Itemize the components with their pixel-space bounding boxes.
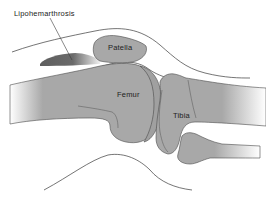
femur — [10, 63, 159, 142]
knee-diagram: Lipohemarthrosis Patella Femur Tibia — [0, 0, 266, 205]
label-femur: Femur — [117, 90, 140, 99]
fibula — [178, 133, 260, 164]
lipohemarthrosis-leader-line — [50, 18, 72, 60]
label-lipohemarthrosis: Lipohemarthrosis — [14, 9, 75, 18]
lipohemarthrosis-effusion — [40, 53, 100, 66]
label-patella: Patella — [108, 43, 133, 52]
skin-contour-lower — [44, 154, 192, 190]
label-tibia: Tibia — [173, 111, 191, 120]
